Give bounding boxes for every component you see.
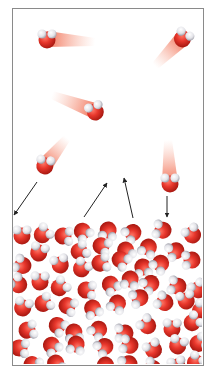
arrow <box>84 183 107 217</box>
liquid-molecule <box>133 311 160 338</box>
liquid-molecule <box>183 349 210 376</box>
hydrogen-atom <box>37 29 46 38</box>
liquid-molecule <box>31 290 57 316</box>
hydrogen-atom <box>12 225 21 234</box>
liquid-molecule <box>69 255 95 281</box>
hydrogen-atom <box>139 364 152 377</box>
liquid-molecule <box>54 226 74 246</box>
liquid-molecule <box>11 295 35 319</box>
liquid-molecule <box>12 225 31 244</box>
vapor-molecule <box>34 154 56 176</box>
liquid-molecule <box>77 280 98 301</box>
direction-arrows <box>14 178 167 218</box>
liquid-molecule <box>56 294 81 319</box>
hydrogen-atom <box>47 365 59 377</box>
liquid-molecule <box>81 297 106 322</box>
liquid-molecule <box>162 318 182 338</box>
liquid-molecule <box>165 354 188 377</box>
liquid-molecule <box>17 319 39 341</box>
liquid-molecule <box>92 353 118 379</box>
liquid-molecule <box>180 308 207 335</box>
liquid-molecule <box>139 355 165 381</box>
liquid-molecule <box>90 252 112 274</box>
hydrogen-atom <box>47 29 56 38</box>
liquid-molecule <box>48 252 71 275</box>
vapor-molecule <box>160 173 179 192</box>
hydrogen-atom <box>165 357 176 368</box>
liquid-molecule <box>10 337 31 358</box>
liquid-molecule <box>116 352 140 376</box>
liquid-molecule <box>179 221 205 247</box>
liquid-molecule <box>30 271 50 290</box>
liquid-molecule <box>186 330 211 355</box>
hydrogen-atom <box>101 367 113 379</box>
hydrogen-atom <box>160 173 169 182</box>
hydrogen-atom <box>30 366 42 378</box>
liquid-molecule <box>4 270 31 297</box>
liquid-molecule <box>27 240 51 264</box>
arrow <box>124 178 133 218</box>
hydrogen-atom <box>202 302 214 315</box>
motion-trails <box>39 31 189 183</box>
hydrogen-atom <box>119 364 130 375</box>
hydrogen-atom <box>22 225 31 234</box>
liquid-molecule <box>181 250 201 270</box>
arrow <box>14 182 37 215</box>
liquid-water-molecules <box>4 219 214 381</box>
hydrogen-atom <box>170 173 179 182</box>
molecule-scene <box>0 0 214 382</box>
liquid-molecule <box>151 219 174 242</box>
